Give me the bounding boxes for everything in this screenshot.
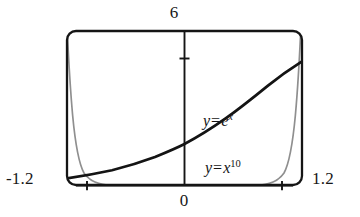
curve-label-exponential-exponent: x (228, 111, 233, 122)
curve-label-power-exponent: 10 (230, 158, 241, 169)
x-min-label: -1.2 (6, 170, 34, 187)
origin-label: 0 (180, 192, 189, 209)
curve-label-exponential-equals: = (210, 112, 221, 129)
curve-label-power-equals: = (212, 159, 223, 176)
curve-label-power: y=x10 (205, 160, 241, 176)
plot-canvas (0, 0, 360, 217)
x-max-label: 1.2 (312, 170, 334, 187)
curve-label-exponential: y=ex (203, 113, 233, 129)
y-max-label: 6 (170, 4, 179, 21)
graph-figure: 6 -1.2 1.2 0 y=ex y=x10 (0, 0, 360, 217)
